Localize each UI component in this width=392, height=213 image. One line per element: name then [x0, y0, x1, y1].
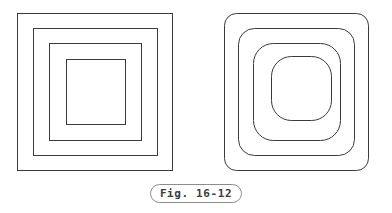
- figure-caption-label: Fig. 16-12: [160, 188, 232, 199]
- left-square-inner: [67, 60, 126, 125]
- left-square-outer: [18, 14, 173, 171]
- right-rounded-square-inner: [272, 57, 332, 121]
- left-square-second: [34, 29, 158, 156]
- left-square-third: [50, 44, 142, 141]
- right-rounded-square-outer: [225, 14, 369, 171]
- right-panel-nested-rounded-squares: [225, 14, 369, 171]
- right-rounded-square-second: [239, 29, 355, 156]
- figure-caption-area: Fig. 16-12: [0, 181, 392, 205]
- figure-caption-pill: Fig. 16-12: [150, 184, 242, 203]
- figure-container: Fig. 16-12: [0, 0, 392, 213]
- left-panel-nested-squares: [18, 14, 173, 171]
- right-rounded-square-third: [254, 44, 341, 141]
